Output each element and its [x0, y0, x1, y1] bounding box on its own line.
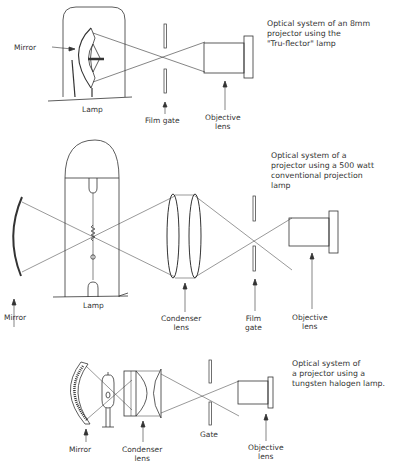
figure-1-film-gate-label: Film gate [145, 116, 180, 125]
condenser-lens [167, 194, 179, 278]
figure-2-condenser-lens-label: Condenser lens [161, 314, 201, 332]
figure-3-tungsten-halogen [70, 360, 273, 442]
figure-1-mirror-label: Mirror [14, 43, 36, 52]
figure-2-caption: Optical system of a projector using a 50… [271, 151, 374, 191]
optical-diagrams [0, 0, 394, 469]
figure-3-mirror-label: Mirror [69, 445, 91, 454]
lamp-housing [63, 7, 125, 97]
objective-lens [238, 381, 268, 404]
lamp-bulb [65, 140, 119, 297]
figure-2-mirror-label: Mirror [4, 313, 26, 322]
figure-3-condenser-lens-label: Condenser lens [122, 445, 162, 463]
figure-2-objective-lens-label: Objective lens [292, 313, 328, 331]
objective-lens [204, 43, 244, 73]
objective-lens [289, 218, 329, 246]
figure-3-gate-label: Gate [200, 430, 218, 439]
gate [209, 360, 212, 383]
figure-2-lamp-label: Lamp [83, 301, 104, 310]
figure-3-caption: Optical system of a projector using a tu… [292, 359, 385, 389]
figure-2-film-gate-label: Film gate [245, 314, 262, 332]
figure-1-lamp-label: Lamp [82, 105, 103, 114]
figure-1-tru-flector [48, 7, 253, 114]
figure-1-caption: Optical system of an 8mm projector using… [267, 19, 370, 49]
condenser-lens [124, 371, 136, 416]
figure-3-objective-lens-label: Objective lens [248, 443, 284, 461]
mirror [13, 197, 22, 276]
film-gate [253, 196, 256, 221]
film-gate [164, 24, 167, 48]
lamp-bulb [102, 375, 114, 408]
base-line [48, 97, 132, 101]
figure-1-objective-lens-label: Objective lens [205, 113, 241, 131]
